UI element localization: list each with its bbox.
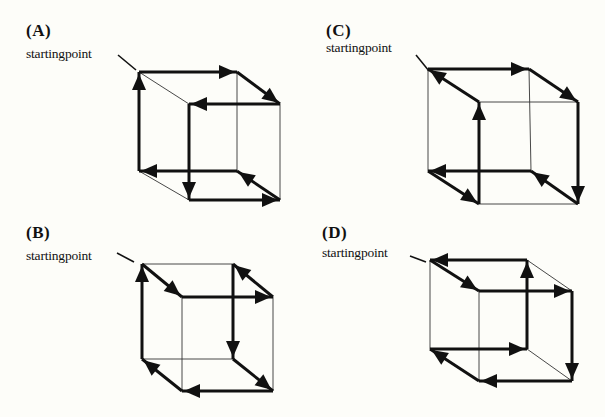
cube-path-diagrams [0,0,605,417]
arrowhead-icon [141,164,157,178]
arrowhead-icon [261,88,278,103]
arrowhead-icon [481,374,497,388]
arrowhead-icon [262,193,278,207]
arrowhead-icon [182,182,196,198]
arrowhead-icon [239,172,256,187]
cube-panel-b [117,253,273,398]
arrowhead-icon [132,74,146,90]
starting-point-pointer [410,256,426,262]
cube-panel-d [410,253,579,388]
arrowhead-icon [559,86,576,101]
arrowhead-icon [219,65,235,79]
arrowhead-icon [430,70,447,85]
arrowhead-icon [520,262,534,278]
arrowhead-icon [460,275,477,289]
arrowhead-icon [432,350,449,365]
arrowhead-icon [511,62,527,76]
starting-point-pointer [416,55,429,71]
arrowhead-icon [184,384,200,398]
arrowhead-icon [554,284,570,298]
arrowhead-icon [460,188,477,203]
cube-edge-thin [527,349,572,381]
arrowhead-icon [565,363,579,379]
arrowhead-icon [472,104,486,120]
cube-edge-thin [139,171,189,200]
cube-panel-a [118,55,280,207]
arrowhead-icon [509,342,525,356]
starting-point-pointer [117,253,134,262]
cube-edge-thin [529,69,531,171]
arrowhead-icon [533,172,550,187]
cube-panel-c [416,55,585,204]
cube-edge-thin [139,72,189,104]
starting-point-pointer [118,55,136,70]
arrowhead-icon [226,341,240,357]
cube-edge-thin [527,260,572,291]
arrowhead-icon [191,97,207,111]
